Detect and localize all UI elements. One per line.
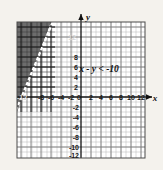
y-tick-label: -4 [73,114,79,121]
coordinate-plane: x y -12 -8 -6 -4 -2 0 2 4 6 8 10 12 12 8… [0,0,163,170]
x-tick-label: -2 [68,94,74,101]
y-tick-label: 6 [74,64,78,71]
y-tick-label: 8 [74,54,78,61]
x-tick-label: 4 [99,94,103,101]
y-tick-label: -8 [73,134,79,141]
x-axis-label: x [152,93,158,103]
x-tick-label: -8 [38,94,44,101]
y-tick-label: -2 [73,104,79,111]
y-tick-label: 4 [74,74,78,81]
x-tick-label: 8 [119,94,123,101]
y-tick-label: 12 [68,34,76,41]
y-tick-label: -10 [69,144,79,151]
y-tick-label: -6 [73,124,79,131]
x-tick-label: -12 [17,94,27,101]
graph-figure: x y -12 -8 -6 -4 -2 0 2 4 6 8 10 12 12 8… [0,0,163,170]
x-tick-label: 2 [89,94,93,101]
x-tick-label: 6 [109,94,113,101]
x-tick-label: 10 [127,94,135,101]
y-tick-label: -12 [69,152,79,159]
x-tick-label: 12 [137,94,145,101]
x-tick-label: -4 [58,94,64,101]
inequality-annotation: x - y < -10 [78,64,119,74]
y-tick-label: 2 [74,84,78,91]
x-tick-label: 0 [77,94,81,101]
x-tick-label: -6 [48,94,54,101]
